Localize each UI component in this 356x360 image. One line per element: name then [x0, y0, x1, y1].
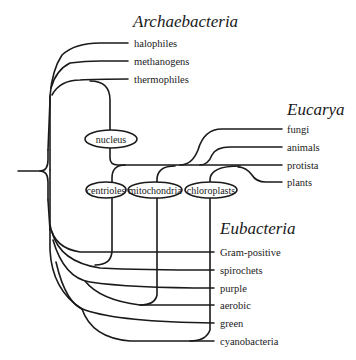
node-centrioles: centrioles — [86, 182, 126, 198]
eubacteria-branches — [50, 225, 214, 341]
leaf-thermophiles: thermophiles — [134, 74, 189, 85]
group-title-eubacteria: Eubacteria — [219, 219, 296, 238]
node-nucleus: nucleus — [85, 130, 137, 148]
centrioles-lineage — [95, 165, 125, 265]
phylogenetic-tree-diagram: nucleus centrioles mitochondria chloropl… — [0, 0, 356, 360]
node-centrioles-label: centrioles — [87, 185, 126, 196]
node-chloroplasts-label: chloroplasts — [187, 185, 235, 196]
group-title-archaebacteria: Archaebacteria — [132, 12, 238, 31]
eucarya-branches — [180, 129, 282, 182]
root-brace — [18, 100, 50, 230]
leaf-fungi: fungi — [287, 124, 309, 135]
leaf-green: green — [220, 318, 244, 329]
leaf-halophiles: halophiles — [134, 38, 177, 49]
leaf-purple: purple — [220, 283, 247, 294]
node-chloroplasts: chloroplasts — [185, 182, 237, 198]
leaf-plants: plants — [287, 177, 312, 188]
nucleus-lineage — [90, 81, 282, 165]
leaf-aerobic: aerobic — [220, 300, 251, 311]
group-title-eucarya: Eucarya — [286, 100, 345, 119]
leaf-methanogens: methanogens — [134, 56, 189, 67]
node-nucleus-label: nucleus — [96, 134, 127, 145]
leaf-protista: protista — [287, 160, 319, 171]
leaf-cyanobacteria: cyanobacteria — [220, 336, 279, 347]
leaf-spirochets: spirochets — [220, 265, 263, 276]
node-mitochondria: mitochondria — [128, 182, 182, 198]
leaf-gram-positive: Gram-positive — [220, 247, 281, 258]
node-mitochondria-label: mitochondria — [128, 185, 182, 196]
leaf-animals: animals — [287, 142, 320, 153]
